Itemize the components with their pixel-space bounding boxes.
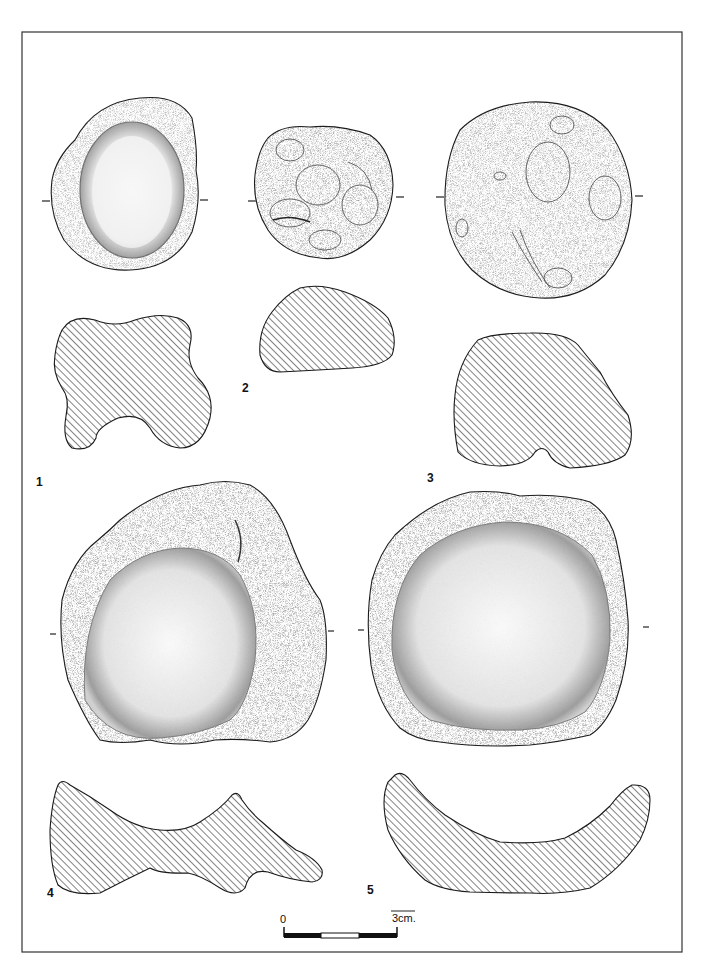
figure-label-3: 3 (427, 471, 434, 485)
object-4-cross-section (50, 782, 322, 894)
scale-bar: 0 3cm. (280, 911, 416, 938)
figure-label-4: 4 (47, 886, 54, 900)
object-1-plan-view (51, 97, 198, 270)
scale-segment-white (321, 933, 359, 938)
scale-segment-black-1 (284, 933, 321, 938)
drawing-plate: 1 2 3 4 5 0 3cm. (0, 0, 701, 976)
figure-label-1: 1 (36, 475, 43, 489)
object-5-cross-section (384, 773, 650, 893)
scale-bar-start-label: 0 (280, 913, 286, 925)
object-2-cross-section (260, 286, 395, 372)
object-3-plan-view (445, 102, 632, 298)
figure-label-2: 2 (242, 381, 249, 395)
object-2-plan-view (255, 126, 393, 258)
object-4-plan-view (61, 482, 327, 745)
object-1-cross-section (54, 315, 211, 448)
object-3-cross-section (454, 333, 631, 468)
figure-label-5: 5 (367, 883, 374, 897)
scale-segment-black-2 (359, 933, 397, 938)
scale-bar-end-label: 3cm. (392, 912, 416, 924)
object-5-plan-view (368, 492, 628, 747)
